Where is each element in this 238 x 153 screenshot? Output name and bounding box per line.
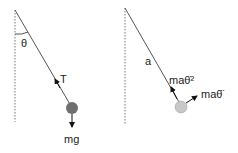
radial-acceleration-label: maθ̇² <box>169 75 194 86</box>
pendulum-bob <box>175 101 187 113</box>
right-pendulum <box>125 8 197 125</box>
pendulum-diagrams <box>0 0 238 153</box>
weight-label: mg <box>64 134 79 145</box>
pendulum-rod <box>15 10 71 106</box>
angle-arc <box>15 32 28 34</box>
tangential-acceleration-arrow <box>186 96 197 103</box>
theta-label: θ <box>21 38 27 49</box>
length-label: a <box>145 56 151 67</box>
left-pendulum <box>15 10 78 127</box>
tension-label: T <box>60 74 67 85</box>
pendulum-bob <box>66 102 78 114</box>
tangential-acceleration-label: maθ̈ <box>201 89 222 100</box>
radial-acceleration-arrow <box>171 87 177 99</box>
